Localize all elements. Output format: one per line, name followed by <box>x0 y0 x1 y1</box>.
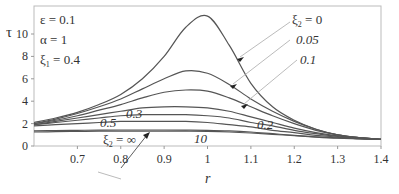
x-tick-label: 1.4 <box>374 152 389 166</box>
label-xi2-inf: ξ2 = ∞ <box>103 132 136 149</box>
curves <box>34 15 381 139</box>
y-tick-label: 8 <box>22 49 28 63</box>
y-tick-label: 2 <box>22 117 28 131</box>
x-tick-label: 1 <box>205 152 211 166</box>
curve-series <box>34 71 381 140</box>
param-epsilon: ε = 0.1 <box>40 12 76 27</box>
label-005: 0.05 <box>296 32 319 47</box>
label-05: 0.5 <box>100 115 117 130</box>
x-axis-label: r <box>205 171 211 186</box>
y-tick-label: 10 <box>16 27 28 41</box>
label-03: 0.3 <box>126 106 143 121</box>
x-tick-label: 0.8 <box>113 152 128 166</box>
param-alpha: α = 1 <box>40 32 67 47</box>
x-tick-label: 1.2 <box>287 152 302 166</box>
plot-frame <box>34 6 381 146</box>
x-tick-label: 0.9 <box>157 152 172 166</box>
y-axis-label: τ <box>6 24 12 40</box>
y-tick-label: 0 <box>22 139 28 153</box>
x-tick-label: 1.1 <box>243 152 258 166</box>
x-tick-label: 0.7 <box>70 152 85 166</box>
label-02: 0.2 <box>257 117 274 132</box>
label-xi2-0: ξ2 = 0 <box>292 12 322 29</box>
curve-series <box>34 115 381 140</box>
curve-series <box>34 15 381 139</box>
y-axis-ticks: 0246810 <box>16 27 34 153</box>
y-tick-label: 4 <box>22 94 28 108</box>
param-xi1: ξ1 = 0.4 <box>40 52 80 69</box>
chart: 0246810 0.70.80.911.11.21.31.4 τ r ε = 0… <box>0 0 399 194</box>
x-axis-ticks: 0.70.80.911.11.21.31.4 <box>70 146 389 166</box>
arrowheads <box>143 57 248 139</box>
label-01: 0.1 <box>300 52 316 67</box>
y-tick-label: 6 <box>22 72 28 86</box>
x-tick-label: 1.3 <box>330 152 345 166</box>
label-10: 10 <box>194 131 208 146</box>
